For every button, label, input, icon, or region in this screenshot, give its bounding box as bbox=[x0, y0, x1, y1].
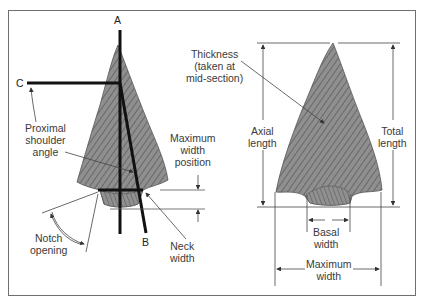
left-projectile-point bbox=[77, 45, 168, 207]
thickness-label: Thickness (taken at mid-section) bbox=[186, 48, 243, 84]
basal-width-label: Basal width bbox=[313, 226, 339, 250]
point-label-b: B bbox=[142, 236, 149, 248]
total-length-label: Total length bbox=[378, 125, 407, 149]
maximum-width-position-label: Maximum width position bbox=[170, 132, 216, 168]
right-projectile-point bbox=[276, 43, 382, 205]
axial-length-label: Axial length bbox=[248, 125, 277, 149]
point-label-a: A bbox=[114, 14, 121, 26]
point-label-c: C bbox=[16, 77, 24, 89]
notch-opening-label: Notch opening bbox=[30, 232, 67, 256]
neck-width-label: Neck width bbox=[170, 240, 195, 264]
maximum-width-label: Maximum width bbox=[306, 258, 352, 282]
proximal-shoulder-angle-label: Proximal shoulder angle bbox=[25, 122, 66, 158]
